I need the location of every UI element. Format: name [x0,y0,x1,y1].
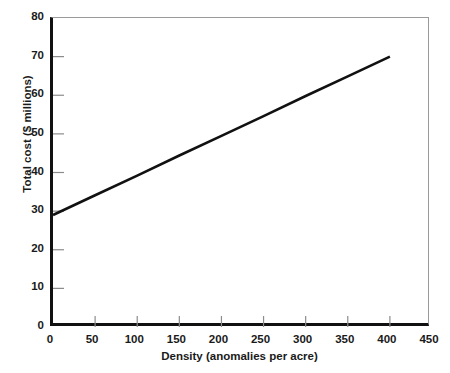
y-tick-label: 20 [0,243,44,255]
y-tick-label: 80 [0,11,44,23]
x-tick-label: 450 [399,334,450,346]
plot-canvas [53,18,432,327]
x-axis-title: Density (anomalies per acre) [50,350,429,362]
y-tick-label: 0 [0,320,44,332]
data-line [53,57,390,215]
data-series-group [53,57,390,215]
y-axis-ticks [53,18,64,288]
plot-area [50,17,429,326]
x-axis-ticks [95,316,390,327]
y-axis-title: Total cost ($ millions) [21,49,33,219]
chart-figure: 01020304050607080 0501001502002503003504… [0,0,450,373]
y-tick-label: 10 [0,281,44,293]
